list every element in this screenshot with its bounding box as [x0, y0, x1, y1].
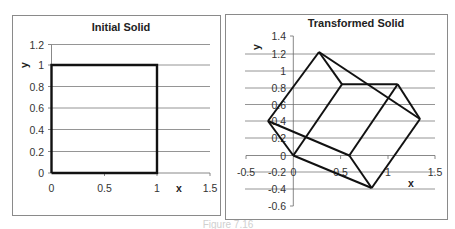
- svg-text:1: 1: [38, 59, 44, 71]
- figure: Initial Solid 1.2 1: [0, 0, 455, 229]
- svg-text:-0.2: -0.2: [268, 166, 286, 178]
- svg-text:0: 0: [49, 182, 55, 194]
- svg-text:1.2: 1.2: [271, 48, 286, 60]
- svg-text:0.8: 0.8: [271, 82, 286, 94]
- svg-text:0: 0: [38, 167, 44, 179]
- svg-text:1.5: 1.5: [428, 166, 443, 178]
- initial-solid-chart: Initial Solid 1.2 1: [13, 16, 221, 216]
- y-axis-label: y: [250, 44, 262, 50]
- svg-text:0: 0: [280, 150, 286, 162]
- svg-text:0: 0: [291, 166, 297, 178]
- svg-text:1: 1: [154, 182, 160, 194]
- svg-text:0.2: 0.2: [29, 146, 44, 158]
- figure-caption: Figure 7.16: [203, 219, 254, 229]
- svg-text:1.4: 1.4: [271, 30, 286, 42]
- y-tick-labels: 1.4 1.2 1 0.8 0.6 0.4 0.2 0 -0.2 -0.4 -0…: [268, 30, 286, 212]
- svg-text:1.2: 1.2: [29, 39, 44, 51]
- svg-text:-0.4: -0.4: [268, 183, 286, 195]
- svg-text:1: 1: [280, 65, 286, 77]
- svg-text:-0.6: -0.6: [268, 200, 286, 212]
- x-axis-label: x: [408, 177, 414, 189]
- x-axis-label: x: [176, 182, 182, 194]
- y-axis-label: y: [18, 62, 30, 68]
- svg-text:0.5: 0.5: [97, 182, 112, 194]
- svg-text:0.8: 0.8: [29, 81, 44, 93]
- transformed-solid-chart: Transformed Solid 1.4 1.2 1: [226, 15, 448, 220]
- chart-title: Initial Solid: [92, 21, 151, 33]
- svg-text:-0.5: -0.5: [237, 166, 255, 178]
- svg-text:1.5: 1.5: [203, 182, 218, 194]
- svg-text:0.4: 0.4: [29, 124, 44, 136]
- svg-text:0.6: 0.6: [29, 102, 44, 114]
- chart-title: Transformed Solid: [308, 17, 405, 29]
